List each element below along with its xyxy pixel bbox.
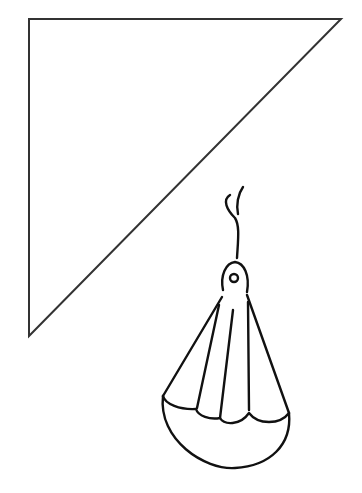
line-drawing (0, 0, 362, 493)
right-triangle (29, 19, 341, 336)
shuttlecock-icon (163, 187, 290, 468)
drawing-canvas (0, 0, 362, 493)
